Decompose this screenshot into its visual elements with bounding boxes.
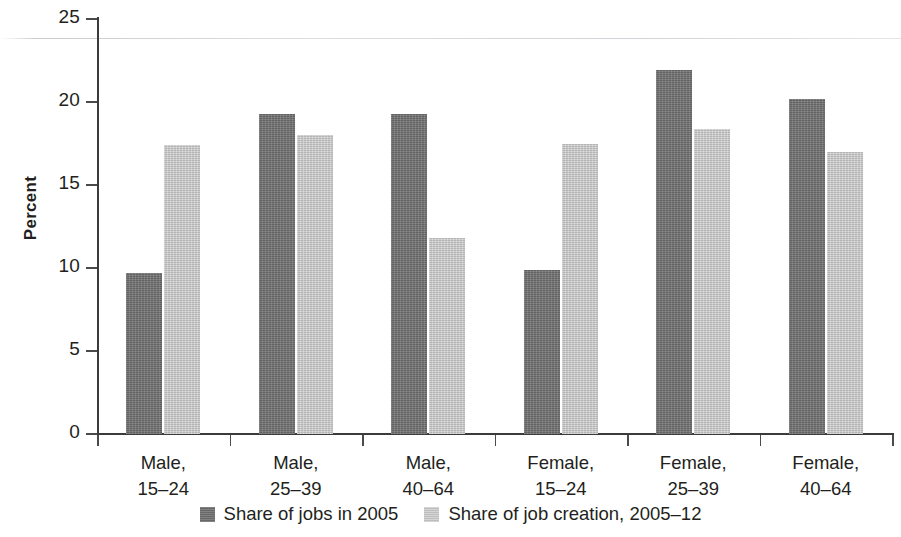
legend-item-1[interactable]: Share of job creation, 2005–12 — [424, 503, 701, 525]
x-axis-category-label: Female,15–24 — [486, 450, 636, 502]
y-axis-tick-label: 5 — [20, 338, 80, 360]
category-label-line2: 25–39 — [618, 476, 768, 502]
y-axis-tick — [86, 267, 97, 269]
bar-0-3 — [524, 270, 560, 434]
dark-gray-swatch — [200, 507, 215, 522]
bar-1-2 — [429, 238, 465, 434]
x-axis-category-label: Female,25–39 — [618, 450, 768, 502]
bar-1-0 — [164, 145, 200, 434]
y-axis-tick — [86, 101, 97, 103]
x-axis-category-label: Male,25–39 — [221, 450, 371, 502]
bar-0-4 — [656, 70, 692, 434]
category-label-line2: 25–39 — [221, 476, 371, 502]
chart-legend: Share of jobs in 2005Share of job creati… — [0, 503, 901, 525]
legend-label: Share of job creation, 2005–12 — [448, 503, 701, 525]
bar-0-5 — [789, 99, 825, 434]
legend-item-0[interactable]: Share of jobs in 2005 — [200, 503, 399, 525]
category-label-line2: 15–24 — [88, 476, 238, 502]
y-axis-tick-label: 15 — [20, 172, 80, 194]
bar-1-1 — [297, 135, 333, 434]
bar-0-2 — [391, 114, 427, 434]
x-axis-category-label: Female,40–64 — [751, 450, 901, 502]
y-axis-tick — [86, 433, 97, 435]
x-axis-category-label: Male,40–64 — [353, 450, 503, 502]
x-axis-tick — [97, 435, 99, 446]
bar-0-1 — [259, 114, 295, 434]
x-axis-tick — [760, 435, 762, 446]
x-axis-tick — [362, 435, 364, 446]
x-axis-category-label: Male,15–24 — [88, 450, 238, 502]
bar-1-3 — [562, 144, 598, 435]
category-label-line1: Male, — [406, 452, 451, 473]
y-axis-tick-label: 20 — [20, 89, 80, 111]
legend-label: Share of jobs in 2005 — [224, 503, 399, 525]
bar-1-4 — [694, 129, 730, 434]
category-label-line2: 40–64 — [353, 476, 503, 502]
category-label-line1: Female, — [527, 452, 594, 473]
bar-1-5 — [827, 152, 863, 434]
x-axis-tick — [627, 435, 629, 446]
category-label-line2: 15–24 — [486, 476, 636, 502]
bar-0-0 — [126, 273, 162, 434]
x-axis-tick — [230, 435, 232, 446]
y-axis-tick — [86, 350, 97, 352]
category-label-line1: Male, — [273, 452, 318, 473]
light-gray-swatch — [424, 507, 439, 522]
y-axis-tick — [86, 184, 97, 186]
x-axis-tick — [892, 435, 894, 446]
y-axis-tick-label: 10 — [20, 255, 80, 277]
plot-area — [97, 19, 892, 434]
category-label-line2: 40–64 — [751, 476, 901, 502]
category-label-line1: Female, — [792, 452, 859, 473]
bar-chart-figure: Percent 0510152025 Male,15–24Male,25–39M… — [0, 0, 901, 537]
category-label-line1: Female, — [660, 452, 727, 473]
y-axis-tick-label: 25 — [20, 6, 80, 28]
y-axis-tick — [86, 18, 97, 20]
x-axis-tick — [495, 435, 497, 446]
y-axis-title: Percent — [21, 148, 41, 268]
y-axis-tick-label: 0 — [20, 421, 80, 443]
category-label-line1: Male, — [141, 452, 186, 473]
